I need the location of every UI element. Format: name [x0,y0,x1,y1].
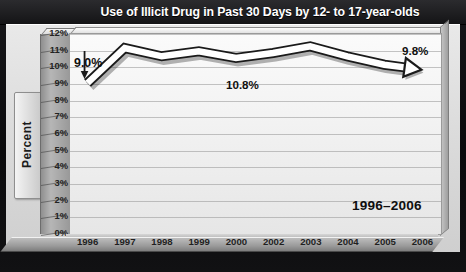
data-label-1996: 9.0% [74,56,102,70]
y-tick-label: 8% [36,94,70,106]
data-label-2002: 10.8% [226,78,259,91]
y-tick-label: 6% [36,127,70,139]
y-tick-label: 11% [36,44,70,56]
y-tick-label: 12% [36,27,70,39]
data-label-2006: 9.8% [402,44,428,57]
x-axis-labels: 1996199719981999200020022003200420052006 [69,234,441,249]
y-tick-label: 3% [36,177,70,189]
y-tick-label: 5% [36,144,70,156]
y-tick-label: 10% [36,60,70,72]
title-bar: Use of Illicit Drug in Past 30 Days by 1… [0,0,466,25]
x-tick-label: 1998 [143,234,180,249]
x-tick-label: 1999 [181,234,218,249]
chart-frame: Use of Illicit Drug in Past 30 Days by 1… [0,0,466,272]
y-tick-label: 4% [36,160,70,172]
x-tick-label: 2003 [292,234,329,249]
x-tick-label: 2006 [404,234,441,249]
y-tick-label: 7% [36,110,70,122]
y-axis-labels: 12%11%10%9%8%7%6%5%4%3%2%1%0% [36,28,70,240]
y-tick-label: 9% [36,77,70,89]
x-tick-label: 1997 [106,234,143,249]
x-tick-label: 2000 [218,234,255,249]
y-tick-label: 1% [36,210,70,222]
x-tick-label: 1996 [69,234,106,249]
page-title: Use of Illicit Drug in Past 30 Days by 1… [58,3,462,22]
x-tick-label: 2002 [255,234,292,249]
x-tick-label: 2005 [367,234,404,249]
y-tick-label: 2% [36,194,70,206]
x-tick-label: 2004 [329,234,366,249]
range-caption: 1996–2006 [352,198,422,213]
